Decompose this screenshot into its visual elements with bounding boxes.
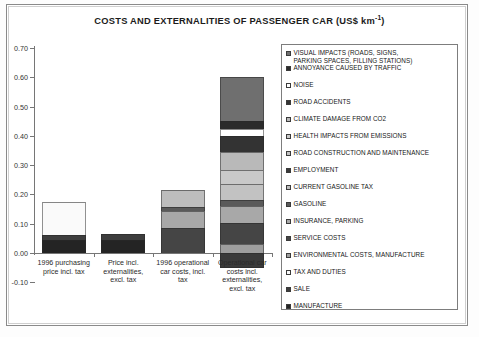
- legend-swatch-icon: [286, 117, 291, 122]
- bar-segment: [161, 228, 205, 253]
- y-axis-tick: [30, 48, 35, 49]
- x-axis-tick: [153, 253, 154, 257]
- bar-segment: [220, 129, 264, 135]
- y-axis-tick-label: 0.60: [14, 73, 28, 82]
- y-axis-tick: [30, 107, 35, 108]
- legend-item-label: MANUFACTURE: [294, 302, 343, 310]
- x-axis-category-label: Operational car costs incl. externalitie…: [215, 259, 271, 293]
- y-axis-tick-label: 0.50: [14, 102, 28, 111]
- legend-item-label: EMPLOYMENT: [294, 166, 339, 174]
- legend-item: ENVIRONMENTAL COSTS, MANUFACTURE: [286, 251, 454, 259]
- legend-item: HEALTH IMPACTS FROM EMISSIONS: [286, 132, 454, 140]
- legend-item: MANUFACTURE: [286, 302, 454, 310]
- legend-swatch-icon: [286, 134, 291, 139]
- y-axis-tick: [30, 77, 35, 78]
- bar-segment: [220, 244, 264, 253]
- chart-title-tail: ): [381, 16, 384, 26]
- legend-swatch-icon: [286, 236, 291, 241]
- legend-item: SALE: [286, 285, 454, 293]
- y-axis-tick-label: 0.00: [14, 249, 28, 258]
- x-axis-category-label: 1996 operational car costs, incl. tax: [155, 259, 211, 285]
- legend-item: ROAD ACCIDENTS: [286, 98, 454, 106]
- y-axis-tick: [30, 253, 35, 254]
- legend-item: EMPLOYMENT: [286, 166, 454, 174]
- legend-item: SERVICE COSTS: [286, 234, 454, 242]
- bar-segment: [220, 223, 264, 244]
- bar-segment: [220, 206, 264, 224]
- bar-segment: [220, 77, 264, 120]
- legend-swatch-icon: [286, 100, 291, 105]
- bar-column: [161, 46, 205, 284]
- legend-item: VISUAL IMPACTS (ROADS, SIGNS, PARKING SP…: [286, 49, 454, 64]
- y-axis-tick-label: 0.70: [14, 44, 28, 53]
- legend-swatch-icon: [286, 219, 291, 224]
- y-axis-tick: [30, 165, 35, 166]
- legend-swatch-icon: [286, 66, 291, 71]
- bar-segment: [220, 184, 264, 200]
- legend-item-label: ROAD CONSTRUCTION AND MAINTENANCE: [294, 149, 430, 157]
- legend-swatch-icon: [286, 202, 291, 207]
- y-axis-tick-label: 0.10: [14, 219, 28, 228]
- legend-item: CLIMATE DAMAGE FROM CO2: [286, 115, 454, 123]
- legend-item-label: NOISE: [294, 81, 314, 89]
- legend-item-label: INSURANCE, PARKING: [294, 217, 364, 225]
- bar-segment: [161, 211, 205, 229]
- y-axis-tick-label: 0.30: [14, 161, 28, 170]
- legend-swatch-icon: [286, 185, 291, 190]
- legend-item: INSURANCE, PARKING: [286, 217, 454, 225]
- legend-item-label: SALE: [294, 285, 310, 293]
- legend-swatch-icon: [286, 168, 291, 173]
- bar-segment: [42, 240, 86, 253]
- legend-item-label: ROAD ACCIDENTS: [294, 98, 351, 106]
- legend-item-label: TAX AND DUTIES: [294, 268, 346, 276]
- legend-item-label: ANNOYANCE CAUSED BY TRAFFIC: [294, 64, 402, 72]
- legend-item-label: ENVIRONMENTAL COSTS, MANUFACTURE: [294, 251, 425, 259]
- legend-item: ROAD CONSTRUCTION AND MAINTENANCE: [286, 149, 454, 157]
- bar-segment: [161, 207, 205, 211]
- y-axis-tick: [30, 224, 35, 225]
- x-axis-category-label: Price incl. externalities, excl. tax: [96, 259, 152, 285]
- legend-item-label: SERVICE COSTS: [294, 234, 346, 242]
- legend-item: CURRENT GASOLINE TAX: [286, 183, 454, 191]
- bar-segment: [161, 190, 205, 207]
- bar-segment: [101, 234, 145, 240]
- bar-segment: [42, 235, 86, 240]
- bar-column: [101, 46, 145, 284]
- legend-item-label: HEALTH IMPACTS FROM EMISSIONS: [294, 132, 407, 140]
- bar-segment: [220, 136, 264, 152]
- x-axis-tick: [272, 253, 273, 257]
- y-axis-tick-label: 0.20: [14, 190, 28, 199]
- legend-item-label: CURRENT GASOLINE TAX: [294, 183, 374, 191]
- chart-title-main: COSTS AND EXTERNALITIES OF PASSENGER CAR…: [94, 16, 375, 26]
- bar-segment: [220, 152, 264, 170]
- chart-screenshot: COSTS AND EXTERNALITIES OF PASSENGER CAR…: [0, 0, 479, 337]
- legend-swatch-icon: [286, 151, 291, 156]
- y-axis-tick: [30, 194, 35, 195]
- bar-segment: [220, 200, 264, 205]
- legend-item: ANNOYANCE CAUSED BY TRAFFIC: [286, 64, 454, 72]
- legend-item-label: VISUAL IMPACTS (ROADS, SIGNS, PARKING SP…: [294, 49, 413, 64]
- x-axis-tick: [213, 253, 214, 257]
- bar-segment: [220, 121, 264, 130]
- bar-segment: [42, 202, 86, 235]
- legend-swatch-icon: [286, 83, 291, 88]
- legend-item-label: GASOLINE: [294, 200, 327, 208]
- bar-column: [42, 46, 86, 284]
- page-title: COSTS AND EXTERNALITIES OF PASSENGER CAR…: [0, 14, 479, 26]
- y-axis-tick-label: 0.40: [14, 131, 28, 140]
- legend-item: GASOLINE: [286, 200, 454, 208]
- y-axis-tick: [30, 282, 35, 283]
- legend-swatch-icon: [286, 270, 291, 275]
- legend-swatch-icon: [286, 253, 291, 258]
- legend-item: TAX AND DUTIES: [286, 268, 454, 276]
- plot-area: 0.700.600.500.400.300.200.100.00-0.10199…: [34, 46, 272, 284]
- y-axis-tick-label: -0.10: [12, 278, 28, 287]
- y-axis-tick: [30, 136, 35, 137]
- bar-segment: [101, 240, 145, 253]
- legend-swatch-icon: [286, 304, 291, 309]
- bar-column: [220, 46, 264, 284]
- x-axis-tick: [94, 253, 95, 257]
- legend-item-label: CLIMATE DAMAGE FROM CO2: [294, 115, 387, 123]
- legend-swatch-icon: [286, 287, 291, 292]
- x-axis-category-label: 1996 purchasing price incl. tax: [36, 259, 92, 276]
